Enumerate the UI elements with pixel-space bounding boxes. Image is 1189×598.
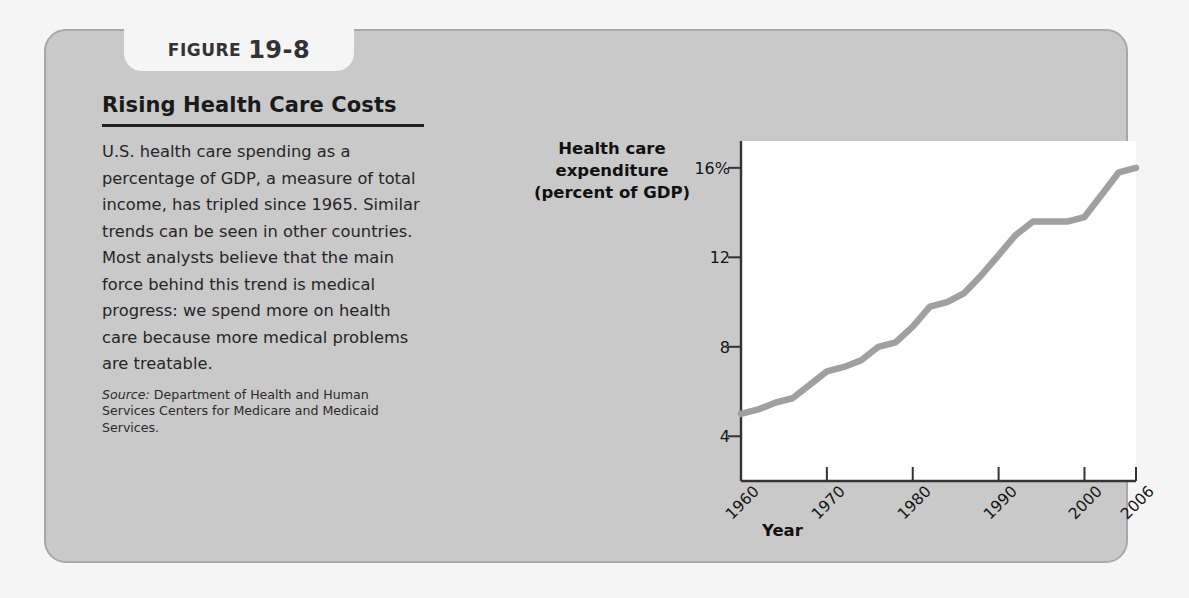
y-tick-label: 16%	[694, 158, 730, 177]
plot-wrapper: 16%1284 196019701980199020002006	[741, 141, 1136, 481]
chart-svg	[681, 138, 1151, 498]
figure-word-label: FIGURE	[168, 40, 241, 60]
y-tick-label: 8	[720, 337, 730, 356]
figure-text-column: Rising Health Care Costs U.S. health car…	[102, 93, 424, 436]
y-axis-title-line2: expenditure	[555, 161, 668, 180]
figure-card: FIGURE 19-8 Rising Health Care Costs U.S…	[44, 29, 1128, 563]
y-tick-label: 12	[710, 248, 730, 267]
y-axis-title-line1: Health care	[558, 139, 665, 158]
figure-title: Rising Health Care Costs	[102, 93, 424, 117]
figure-number-tab: FIGURE 19-8	[124, 29, 354, 71]
source-label: Source:	[102, 387, 150, 402]
y-tick-label: 4	[720, 427, 730, 446]
x-axis-title: Year	[762, 521, 803, 540]
chart-region: Health care expenditure (percent of GDP)…	[446, 66, 1126, 556]
title-divider	[102, 124, 424, 127]
figure-number-label: 19-8	[248, 36, 310, 64]
figure-source-note: Source: Department of Health and Human S…	[102, 387, 424, 437]
y-axis-title-line3: (percent of GDP)	[534, 183, 690, 202]
figure-body-text: U.S. health care spending as a percentag…	[102, 139, 424, 378]
